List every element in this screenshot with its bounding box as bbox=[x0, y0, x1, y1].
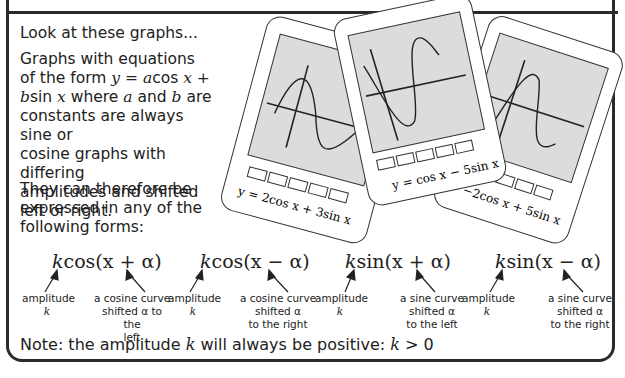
amplitude-label-3: amplitudek bbox=[315, 292, 365, 318]
shift-label-3: a sine curveshifted αto the left bbox=[392, 292, 472, 331]
note-text: Note: the amplitude k will always be pos… bbox=[20, 335, 434, 354]
amplitude-label-4: amplitudek bbox=[462, 292, 512, 318]
shift-label-2: a cosine curveshifted αto the right bbox=[238, 292, 318, 331]
annotation-arrows bbox=[45, 270, 583, 292]
shift-label-4: a sine curveshifted αto the right bbox=[540, 292, 620, 331]
form-kcos-minus: kcos(x − α) bbox=[200, 250, 310, 272]
amplitude-label-1: amplitudek bbox=[22, 292, 72, 318]
form-kcos-plus: kcos(x + α) bbox=[52, 250, 162, 272]
form-ksin-minus: ksin(x − α) bbox=[495, 250, 601, 272]
amplitude-label-2: amplitudek bbox=[168, 292, 218, 318]
form-ksin-plus: ksin(x + α) bbox=[345, 250, 451, 272]
